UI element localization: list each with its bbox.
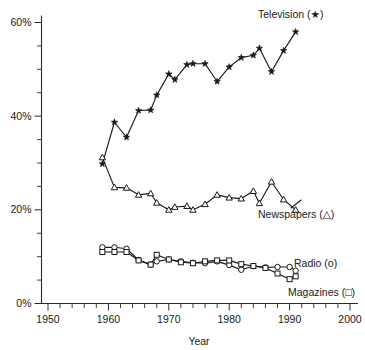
x-tick-label: 1990 (278, 313, 302, 325)
marker-newspapers (256, 200, 262, 206)
marker-newspapers (250, 188, 256, 194)
marker-radio (275, 264, 280, 269)
marker-magazines (124, 249, 129, 254)
marker-magazines (112, 249, 117, 254)
y-tick-label: 20% (10, 203, 31, 215)
x-tick-label: 1960 (97, 313, 121, 325)
marker-television (147, 107, 153, 113)
marker-magazines (190, 261, 195, 266)
y-tick-label: 0% (16, 297, 31, 309)
marker-magazines (239, 262, 244, 267)
marker-newspapers (190, 207, 196, 213)
marker-television (292, 28, 298, 34)
x-axis-title: Year (188, 335, 210, 347)
x-tick-label: 1950 (36, 313, 60, 325)
marker-magazines (166, 257, 171, 262)
marker-radio (154, 259, 159, 264)
series-label-television: Television (★) (258, 8, 323, 20)
chart-canvas: 0%20%40%60%195019601970198019902000YearT… (0, 0, 365, 350)
marker-newspapers (268, 179, 274, 185)
marker-magazines (227, 258, 232, 263)
x-tick-label: 1970 (157, 313, 181, 325)
marker-television (135, 107, 141, 113)
marker-magazines (215, 258, 220, 263)
marker-magazines (287, 277, 292, 282)
series-line-television (102, 32, 295, 164)
marker-magazines (263, 265, 268, 270)
marker-newspapers (166, 207, 172, 213)
x-tick-label: 2000 (338, 313, 362, 325)
y-tick-label: 60% (10, 16, 31, 28)
marker-television (190, 60, 196, 66)
marker-magazines (275, 271, 280, 276)
y-tick-label: 40% (10, 110, 31, 122)
marker-newspapers (214, 192, 220, 198)
marker-magazines (203, 259, 208, 264)
marker-magazines (136, 258, 141, 263)
marker-magazines (178, 260, 183, 265)
marker-magazines (293, 274, 298, 279)
marker-magazines (154, 252, 159, 257)
marker-magazines (251, 264, 256, 269)
series-label-magazines: Magazines (□) (288, 286, 355, 298)
marker-radio (239, 267, 244, 272)
series-line-newspapers (102, 157, 295, 209)
marker-television (202, 60, 208, 66)
marker-radio (287, 264, 292, 269)
series-label-radio: Radio (o) (294, 257, 337, 269)
series-label-newspapers: Newspapers (△) (258, 208, 334, 220)
marker-newspapers (154, 200, 160, 206)
media-share-line-chart: 0%20%40%60%195019601970198019902000YearT… (0, 0, 365, 350)
marker-magazines (148, 262, 153, 267)
marker-newspapers (147, 190, 153, 196)
marker-television (184, 61, 190, 67)
marker-television (268, 68, 274, 74)
marker-magazines (100, 249, 105, 254)
x-tick-label: 1980 (218, 313, 242, 325)
marker-television (153, 92, 159, 98)
